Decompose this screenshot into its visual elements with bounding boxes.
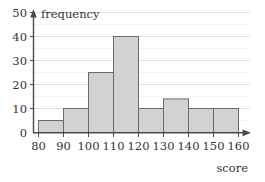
y-axis	[30, 9, 37, 133]
bar-130-140	[164, 99, 189, 133]
bar-150-160	[214, 109, 239, 133]
x-tick-label-80: 80	[31, 139, 46, 153]
y-tick-label-50: 50	[12, 6, 27, 20]
x-axis-title: score	[216, 161, 248, 175]
histogram-figure: 50 40 30 20 10 0 80 90 100 110 120 130 1…	[0, 0, 265, 182]
y-tick-label-20: 20	[12, 78, 27, 92]
x-tick-label-100: 100	[78, 139, 100, 153]
bar-110-120	[114, 37, 139, 133]
x-tick-label-90: 90	[56, 139, 71, 153]
x-tick-label-140: 140	[178, 139, 200, 153]
bar-80-90	[39, 121, 64, 133]
y-axis-title: frequency	[41, 7, 100, 21]
x-tick-label-120: 120	[128, 139, 150, 153]
x-tick-label-150: 150	[203, 139, 225, 153]
y-tick-labels: 50 40 30 20 10 0	[12, 6, 27, 140]
bar-120-130	[139, 109, 164, 133]
histogram-chart: 50 40 30 20 10 0 80 90 100 110 120 130 1…	[0, 0, 265, 182]
bar-140-150	[189, 109, 214, 133]
bar-100-110	[89, 73, 114, 133]
x-tick-label-110: 110	[103, 139, 125, 153]
y-tick-label-40: 40	[12, 30, 27, 44]
y-tick-label-0: 0	[20, 126, 27, 140]
y-tick-label-30: 30	[12, 54, 27, 68]
gridlines-minor	[33, 25, 250, 121]
x-tick-labels: 80 90 100 110 120 130 140 150 160	[31, 139, 249, 153]
y-tick-label-10: 10	[12, 102, 27, 116]
bar-90-100	[64, 109, 89, 133]
x-tick-label-160: 160	[228, 139, 250, 153]
x-tick-label-130: 130	[153, 139, 175, 153]
